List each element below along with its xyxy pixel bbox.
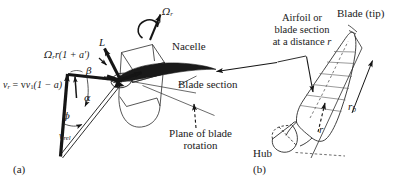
phi-angle-arc [65, 124, 83, 126]
radius-r-label: r [319, 123, 323, 135]
airfoil-leader-into-blade [307, 57, 314, 93]
tangential-label-pointer [99, 58, 107, 65]
hub-baseline-dashed [296, 153, 346, 157]
panel-a-caption: (a) [13, 163, 25, 175]
rotation-speed-label: Ωr [162, 6, 173, 18]
radius-rb-label: rb [348, 100, 356, 114]
tangential-velocity-label: Ωrr(1 + a′) [44, 49, 89, 61]
rotation-axis-arrow [150, 15, 161, 41]
hub-label: Hub [253, 147, 272, 159]
lift-label: L [99, 36, 105, 48]
beta-reference-arrow [75, 77, 77, 99]
hub-cylinder [272, 125, 297, 153]
panel-b-caption: (b) [253, 163, 266, 175]
beta-angle-arc [71, 71, 83, 73]
plane-of-rotation-label: Plane of blade rotation [148, 127, 253, 152]
phi-angle-label: ϕ [63, 110, 70, 121]
beta-angle-label: β [86, 65, 92, 76]
alpha-angle-label: α [84, 92, 91, 103]
blade-section-label: Blade section [178, 78, 238, 90]
drag-label: D [142, 66, 150, 78]
relative-velocity-label: vrel [59, 130, 71, 142]
wind-turbine-blade-diagram: Ωr Nacelle L D Ωrr(1 + a′) vr = vv1(1 − … [0, 0, 409, 187]
airfoil-leader-to-panel-a [217, 63, 278, 72]
axial-velocity-label: vr = vv1(1 − a) [3, 79, 62, 91]
blade-tip-label: Blade (tip) [337, 7, 384, 19]
nacelle-label: Nacelle [172, 40, 206, 52]
lift-vector [105, 49, 121, 80]
airfoil-leader-joint [278, 56, 307, 62]
